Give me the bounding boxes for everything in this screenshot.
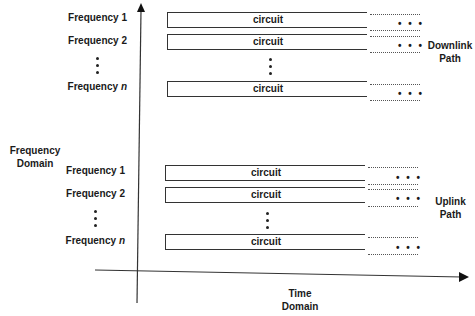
uplink-path-label-line1: Uplink (428, 195, 473, 208)
circuit-label: circuit (168, 83, 368, 94)
dotted-line (368, 237, 418, 238)
dotted-line (368, 206, 418, 207)
vertical-ellipsis-icon (266, 212, 270, 233)
time-domain-label: Time Domain (270, 287, 330, 313)
continuation-ellipsis: • • • (398, 40, 424, 51)
continuation-ellipsis: • • • (398, 88, 424, 99)
dotted-line (370, 52, 420, 53)
circuit-label: circuit (166, 236, 366, 247)
dotted-line (368, 254, 418, 255)
frequency-domain-label-line1: Frequency (0, 144, 70, 157)
uplink-path-label-line2: Path (428, 208, 473, 221)
uplink-frequency-1-label: Frequency 1 (45, 165, 125, 176)
downlink-frequency-1-label: Frequency 1 (47, 12, 127, 23)
continuation-ellipsis: • • • (396, 172, 422, 183)
dotted-line (368, 167, 418, 168)
downlink-frequency-n-label: Frequency n (47, 81, 127, 92)
vertical-ellipsis-icon (269, 58, 273, 79)
continuation-ellipsis: • • • (396, 193, 422, 204)
continuation-ellipsis: • • • (396, 242, 422, 253)
time-axis-arrow-icon (459, 272, 469, 282)
circuit-label: circuit (166, 167, 366, 178)
uplink-circuit-n: circuit (165, 234, 365, 250)
downlink-circuit-2: circuit (167, 34, 367, 50)
vertical-ellipsis-icon (96, 57, 100, 78)
downlink-circuit-n: circuit (167, 81, 367, 97)
circuit-label: circuit (166, 189, 366, 200)
downlink-frequency-2-label: Frequency 2 (47, 35, 127, 46)
uplink-frequency-2-label: Frequency 2 (45, 188, 125, 199)
downlink-circuit-1: circuit (167, 12, 367, 28)
vertical-ellipsis-icon (94, 210, 98, 231)
dotted-line (368, 189, 418, 190)
downlink-path-label-line2: Path (425, 52, 475, 65)
time-axis (95, 270, 462, 277)
downlink-path-label: Downlink Path (425, 39, 475, 65)
downlink-path-label-line1: Downlink (425, 39, 475, 52)
continuation-ellipsis: • • • (398, 18, 424, 29)
time-domain-label-line1: Time (270, 287, 330, 300)
dotted-line (370, 84, 420, 85)
dotted-line (370, 14, 420, 15)
uplink-circuit-1: circuit (165, 165, 365, 181)
frequency-axis-arrow-icon (137, 3, 145, 12)
frequency-axis (137, 10, 141, 303)
time-domain-label-line2: Domain (270, 300, 330, 313)
uplink-frequency-n-label: Frequency n (45, 235, 125, 246)
dotted-line (370, 100, 420, 101)
uplink-path-label: Uplink Path (428, 195, 473, 221)
dotted-line (370, 30, 420, 31)
circuit-label: circuit (168, 36, 368, 47)
uplink-circuit-2: circuit (165, 187, 365, 203)
dotted-line (368, 184, 418, 185)
circuit-label: circuit (168, 14, 368, 25)
dotted-line (370, 36, 420, 37)
